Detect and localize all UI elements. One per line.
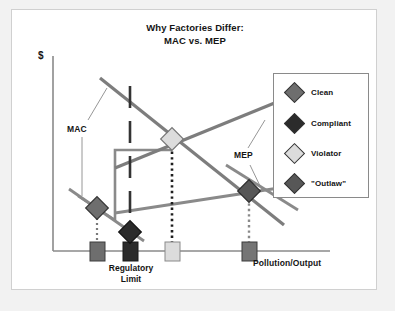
y-axis-label: $ [38, 50, 44, 61]
marker-diamond-compliant [119, 221, 142, 244]
screenshot-root: Why Factories Differ: MAC vs. MEP [0, 0, 395, 311]
legend-label-compliant: Compliant [311, 119, 351, 128]
regulatory-limit-label-line-1: Regulatory [109, 263, 153, 273]
legend-diamond-clean-icon [284, 82, 305, 103]
marker-square-clean [90, 242, 105, 261]
legend-item-compliant: Compliant [274, 108, 370, 139]
chart-legend: Clean Compliant Violator "Outlaw" [273, 73, 369, 198]
marker-diamond-clean [86, 197, 109, 220]
mep-curve-label: MEP [234, 150, 253, 160]
regulatory-limit-label-line-2: Limit [121, 274, 141, 284]
marker-square-violator [165, 242, 180, 261]
legend-label-outlaw: "Outlaw" [311, 179, 346, 188]
legend-item-violator: Violator [274, 138, 370, 169]
x-axis-label: Pollution/Output [253, 258, 321, 268]
legend-label-clean: Clean [311, 88, 333, 97]
legend-diamond-violator-icon [284, 143, 305, 164]
mac-curve-label: MAC [67, 124, 87, 134]
legend-item-outlaw: "Outlaw" [274, 168, 370, 199]
mep-leader-upper [248, 120, 265, 148]
marker-square-compliant [123, 242, 138, 261]
legend-diamond-compliant-icon [284, 113, 305, 134]
legend-item-clean: Clean [274, 77, 370, 108]
mac-curve [100, 78, 284, 225]
mac-leader-upper [88, 88, 107, 120]
legend-diamond-outlaw-icon [284, 173, 305, 194]
regulatory-limit-label: Regulatory Limit [88, 263, 174, 285]
figure-panel: Why Factories Differ: MAC vs. MEP [11, 9, 377, 290]
legend-label-violator: Violator [311, 149, 341, 158]
